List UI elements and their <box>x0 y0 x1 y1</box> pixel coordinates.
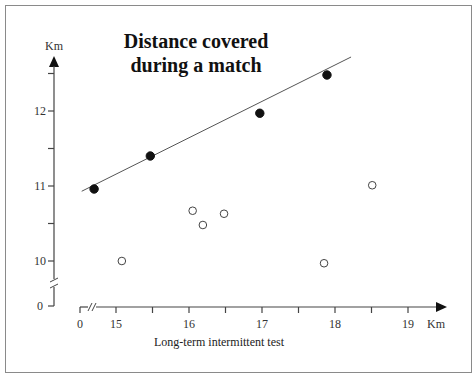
chart-title-line1: Distance covered <box>124 30 269 52</box>
x-tick-label: 17 <box>256 317 268 331</box>
y-axis-arrow-icon <box>49 56 59 67</box>
x-axis-arrow-icon <box>436 302 447 312</box>
y-tick-label: 12 <box>34 104 46 118</box>
open-data-point <box>220 210 228 218</box>
y-tick-label: 10 <box>34 254 46 268</box>
x-axis-title: Long-term intermittent test <box>154 335 285 349</box>
filled-data-point <box>323 71 331 79</box>
y-tick-label: 11 <box>34 179 46 193</box>
x-axis: Km Long-term intermittent test 015161718… <box>77 302 447 349</box>
data-points <box>90 71 376 267</box>
y-tick-label: 0 <box>37 299 43 313</box>
x-tick-label: 18 <box>329 317 341 331</box>
filled-data-point <box>90 185 98 193</box>
x-tick-label: 19 <box>402 317 414 331</box>
open-data-point <box>320 259 328 267</box>
y-axis: Km 0101112 <box>34 39 64 313</box>
x-unit-label: Km <box>427 317 446 331</box>
filled-data-point <box>146 152 154 160</box>
x-tick-label: 16 <box>183 317 195 331</box>
x-tick-label: 0 <box>77 317 83 331</box>
open-data-point <box>189 207 197 215</box>
scatter-chart: Distance covered during a match Km 01011… <box>0 0 476 382</box>
open-data-point <box>199 221 207 229</box>
open-data-point <box>368 181 376 189</box>
chart-title-line2: during a match <box>130 54 261 77</box>
open-data-point <box>118 257 126 265</box>
x-axis-break-icon <box>88 303 92 311</box>
filled-data-point <box>256 109 264 117</box>
x-tick-label: 15 <box>110 317 122 331</box>
regression-line <box>82 57 351 191</box>
y-unit-label: Km <box>45 39 64 53</box>
